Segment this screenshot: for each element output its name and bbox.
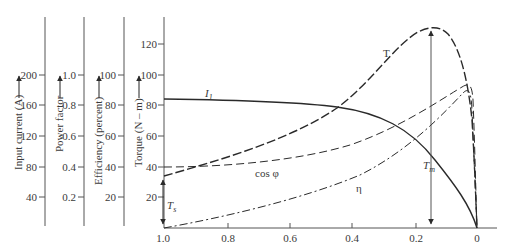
slip-tick: 0.8 xyxy=(221,232,235,244)
curve-power-factor xyxy=(164,85,477,228)
pf-tick: 0.4 xyxy=(62,161,76,173)
label-power-factor: cos φ xyxy=(255,167,279,179)
curve-torque xyxy=(164,28,477,228)
slip-tick: 0.2 xyxy=(409,232,423,244)
label-efficiency: η xyxy=(356,182,362,194)
pf-tick: 1.0 xyxy=(62,69,76,81)
eff-tick: 20 xyxy=(105,191,117,203)
pf-tick: 0.2 xyxy=(62,191,76,203)
torque-tick: 20 xyxy=(146,191,158,203)
eff-tick: 100 xyxy=(100,69,117,81)
label-torque: T xyxy=(383,47,390,59)
eff-axis-title: Efficiency (percent) xyxy=(92,97,105,185)
slip-tick: 0.6 xyxy=(283,232,297,244)
curve-i1 xyxy=(164,99,477,228)
torque-tick: 40 xyxy=(146,161,158,173)
eff-tick: 60 xyxy=(105,130,117,142)
torque-tick: 120 xyxy=(141,38,158,50)
torque-axis: 120 100 80 60 40 20 Torque (N – m) xyxy=(132,17,164,228)
slip-tick: 1.0 xyxy=(156,232,170,244)
eff-tick: 80 xyxy=(105,99,117,111)
torque-axis-title: Torque (N – m) xyxy=(132,98,145,167)
torque-tick: 80 xyxy=(146,99,158,111)
pf-axis-title: Power factor xyxy=(53,95,65,152)
current-tick: 80 xyxy=(26,161,38,173)
current-axis-title: Input current (A) xyxy=(12,95,25,170)
label-ts: Ts xyxy=(167,199,176,214)
curve-efficiency xyxy=(164,91,477,228)
label-tm: Tm xyxy=(423,159,435,174)
slip-tick: 0 xyxy=(474,232,480,244)
current-tick: 40 xyxy=(26,191,38,203)
eff-tick: 40 xyxy=(105,161,117,173)
induction-motor-characteristics-chart: 200 160 120 80 40 Input current (A) 1.0 … xyxy=(0,0,513,251)
slip-tick: 0.4 xyxy=(345,232,359,244)
efficiency-axis: 100 80 60 40 20 Efficiency (percent) xyxy=(92,17,124,226)
power-factor-axis: 1.0 0.8 0.6 0.4 0.2 Power factor xyxy=(53,17,84,226)
slip-axis: 1.0 0.8 0.6 0.4 0.2 0 xyxy=(156,223,497,244)
input-current-axis: 200 160 120 80 40 Input current (A) xyxy=(12,17,45,226)
torque-tick: 100 xyxy=(141,69,158,81)
torque-tick: 60 xyxy=(146,130,158,142)
current-tick: 200 xyxy=(21,69,38,81)
